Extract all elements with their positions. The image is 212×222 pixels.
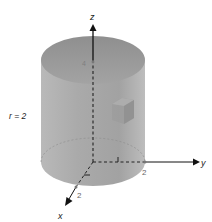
height-point: [92, 61, 95, 64]
radius-label: r = 2: [9, 111, 27, 121]
y-axis-label: y: [200, 158, 206, 168]
cylinder-diagram: z 4 2 y 2 x r = 2: [0, 0, 212, 222]
z-axis-label: z: [89, 12, 95, 22]
y-tick-label: 2: [142, 168, 147, 177]
x-axis-label: x: [57, 211, 63, 221]
x-tick-point: [75, 186, 78, 189]
y-arrow-icon: [193, 159, 200, 166]
height-label: 4: [82, 60, 86, 67]
y-tick-point: [144, 161, 147, 164]
z-arrow-icon: [90, 24, 97, 31]
x-tick-label: 2: [77, 191, 82, 200]
x-arrow-icon: [65, 197, 73, 206]
